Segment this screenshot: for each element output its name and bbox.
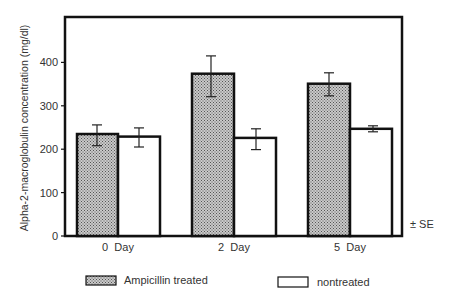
x-label-day2: 2 Day — [218, 241, 250, 253]
y-axis-title: Alpha-2-macroglobulin concentration (mg/… — [18, 25, 30, 232]
legend-label-nontreated: nontreated — [317, 276, 370, 288]
bar-ampicillin-day2 — [192, 74, 234, 236]
bar-nontreated-day2 — [234, 138, 276, 236]
legend-swatch-nontreated — [278, 277, 308, 287]
legend-swatch-ampicillin — [86, 276, 116, 285]
y-tick-100: 100 — [40, 187, 58, 199]
x-label-day5: 5 Day — [334, 241, 366, 253]
y-tick-0: 0 — [52, 230, 58, 242]
se-label: ± SE — [410, 218, 434, 230]
x-label-day0: 0 Day — [102, 241, 134, 253]
bar-nontreated-day5 — [350, 129, 392, 236]
y-tick-200: 200 — [40, 143, 58, 155]
bar-ampicillin-day0 — [77, 134, 118, 236]
bar-ampicillin-day5 — [308, 84, 350, 236]
y-tick-300: 300 — [40, 100, 58, 112]
y-tick-400: 400 — [40, 56, 58, 68]
legend-label-ampicillin: Ampicillin treated — [124, 274, 208, 286]
bar-nontreated-day0 — [118, 137, 160, 236]
bar-chart: 0 100 200 300 400 Alpha-2-macroglobulin … — [0, 0, 457, 303]
